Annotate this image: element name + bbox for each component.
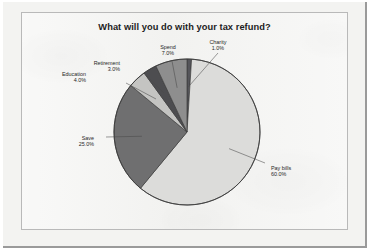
chart-panel: What will you do with your tax refund? C… [21, 12, 348, 230]
pie-label-save: Save25.0% [60, 135, 94, 147]
pie-label-value: 1.0% [198, 45, 238, 51]
pie-slice-group [114, 59, 260, 205]
pie-label-value: 60.0% [271, 171, 311, 177]
pie-label-education: Education4.0% [52, 71, 86, 83]
pie-label-value: 25.0% [60, 141, 94, 147]
pie-label-value: 3.0% [86, 66, 120, 72]
pie-label-value: 4.0% [52, 77, 86, 83]
pie-label-pay-bills: Pay bills60.0% [271, 165, 311, 177]
pie-label-spend: Spend7.0% [148, 44, 188, 56]
pie-label-charity: Charity1.0% [198, 39, 238, 51]
screenshot-root: What will you do with your tax refund? C… [0, 0, 371, 251]
pie-label-retirement: Retirement3.0% [86, 60, 120, 72]
pie-label-value: 7.0% [148, 50, 188, 56]
pie-chart: Charity1.0%Pay bills60.0%Save25.0%Educat… [22, 13, 348, 230]
